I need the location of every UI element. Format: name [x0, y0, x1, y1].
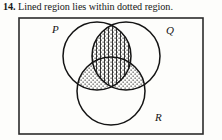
set-label-p: P [51, 23, 59, 35]
page-root: 14.Lined region lies within dotted regio… [0, 0, 222, 140]
venn-diagram-svg: P Q R [0, 15, 222, 140]
exercise-number: 14. [3, 1, 16, 12]
exercise-statement: Lined region lies within dotted region. [18, 1, 173, 12]
venn-diagram-figure: P Q R [0, 15, 222, 140]
set-label-q: Q [166, 24, 174, 36]
exercise-prompt: 14.Lined region lies within dotted regio… [3, 0, 221, 15]
set-label-r: R [154, 111, 162, 123]
